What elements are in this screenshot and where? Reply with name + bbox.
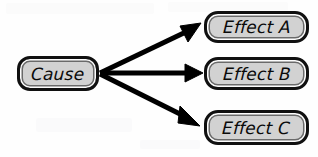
node-cause[interactable]: Cause (17, 56, 99, 91)
node-effect-a[interactable]: Effect A (204, 11, 309, 43)
node-cause-label: Cause (31, 64, 85, 84)
node-effect-b[interactable]: Effect B (204, 57, 309, 90)
node-effect-b-label: Effect B (222, 64, 291, 84)
node-effect-c[interactable]: Effect C (204, 110, 309, 145)
diagram-canvas: Cause Effect A Effect B Effect C (0, 0, 318, 157)
node-effect-c-label: Effect C (222, 118, 291, 138)
node-effect-a-label: Effect A (222, 17, 291, 37)
